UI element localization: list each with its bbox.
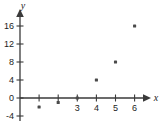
scatter-chart: -40481216 3456 x y	[0, 0, 166, 130]
x-axis-label: x	[153, 92, 159, 103]
y-axis-label: y	[20, 0, 26, 11]
axis-label-layer: x y	[0, 0, 166, 130]
